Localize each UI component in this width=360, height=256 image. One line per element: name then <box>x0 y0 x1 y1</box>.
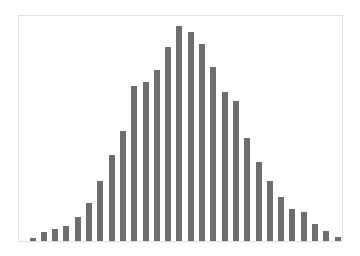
bar <box>278 197 284 241</box>
bar <box>267 181 273 241</box>
bar <box>63 226 69 241</box>
bar <box>52 229 58 241</box>
bar <box>176 26 182 241</box>
bar <box>233 101 239 241</box>
bar <box>165 47 171 241</box>
bar <box>335 237 341 241</box>
bar <box>323 231 329 241</box>
bar <box>188 32 194 241</box>
bar <box>75 217 81 241</box>
bar <box>97 181 103 241</box>
bar <box>244 138 250 241</box>
bar <box>199 44 205 241</box>
bar <box>131 86 137 241</box>
bar <box>30 238 36 241</box>
bar <box>210 67 216 241</box>
bar <box>256 162 262 241</box>
bar <box>86 203 92 241</box>
bar <box>154 70 160 241</box>
bar <box>222 92 228 241</box>
bar <box>312 224 318 241</box>
bar <box>109 155 115 241</box>
bar <box>120 131 126 241</box>
bar <box>301 212 307 241</box>
bar <box>289 209 295 241</box>
histogram-chart <box>0 0 360 256</box>
bar <box>143 82 149 241</box>
bar <box>41 232 47 241</box>
